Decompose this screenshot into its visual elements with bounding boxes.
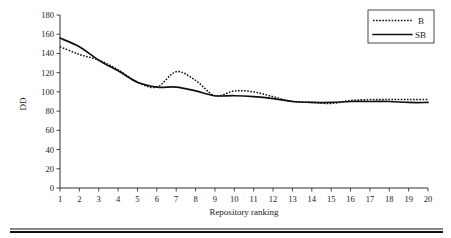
y-tick-label: 20 bbox=[46, 164, 55, 174]
y-tick-label: 180 bbox=[41, 10, 54, 20]
x-tick-label: 4 bbox=[116, 194, 121, 204]
y-tick-label: 140 bbox=[41, 48, 54, 58]
line-chart: 020406080100120140160180 123456789101112… bbox=[0, 0, 451, 238]
x-tick-label: 10 bbox=[230, 194, 239, 204]
x-tick-label: 9 bbox=[213, 194, 217, 204]
x-tick-label: 12 bbox=[269, 194, 278, 204]
x-tick-label: 6 bbox=[155, 194, 159, 204]
x-tick-label: 20 bbox=[424, 194, 433, 204]
y-tick-label: 60 bbox=[46, 125, 55, 135]
x-axis-tick-labels: 1234567891011121314151617181920 bbox=[58, 194, 432, 204]
y-tick-label: 100 bbox=[41, 87, 54, 97]
y-tick-label: 0 bbox=[50, 183, 54, 193]
y-tick-label: 80 bbox=[46, 106, 55, 116]
x-tick-label: 19 bbox=[404, 194, 413, 204]
series-line-b bbox=[60, 47, 428, 104]
x-tick-label: 15 bbox=[327, 194, 336, 204]
x-tick-label: 17 bbox=[366, 194, 375, 204]
y-tick-label: 160 bbox=[41, 29, 54, 39]
x-axis-title: Repository ranking bbox=[209, 207, 279, 217]
y-tick-label: 40 bbox=[46, 145, 55, 155]
y-axis-ticks bbox=[57, 15, 61, 188]
x-tick-label: 5 bbox=[135, 194, 139, 204]
x-tick-label: 3 bbox=[97, 194, 101, 204]
y-axis-title: DD bbox=[18, 97, 28, 110]
series-line-sb bbox=[60, 38, 428, 103]
legend-label-sb: SB bbox=[415, 30, 426, 40]
x-tick-label: 1 bbox=[58, 194, 62, 204]
x-tick-label: 14 bbox=[308, 194, 317, 204]
y-tick-label: 120 bbox=[41, 68, 54, 78]
x-tick-label: 2 bbox=[77, 194, 81, 204]
chart-legend: B SB bbox=[368, 10, 434, 43]
y-axis-tick-labels: 020406080100120140160180 bbox=[41, 10, 54, 193]
x-tick-label: 8 bbox=[193, 194, 197, 204]
x-axis-ticks bbox=[60, 188, 428, 192]
x-tick-label: 13 bbox=[288, 194, 297, 204]
x-tick-label: 18 bbox=[385, 194, 394, 204]
chart-figure: 020406080100120140160180 123456789101112… bbox=[0, 0, 451, 238]
x-tick-label: 16 bbox=[346, 194, 355, 204]
x-tick-label: 11 bbox=[250, 194, 258, 204]
legend-label-b: B bbox=[418, 16, 424, 26]
x-tick-label: 7 bbox=[174, 194, 178, 204]
